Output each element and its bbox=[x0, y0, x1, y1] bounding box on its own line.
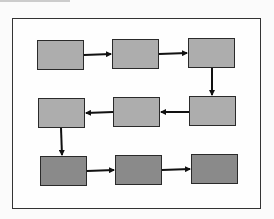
flow-box-6 bbox=[38, 98, 85, 128]
top-edge-artifact bbox=[0, 0, 70, 2]
flow-box-7 bbox=[40, 156, 87, 186]
diagram-canvas bbox=[0, 0, 274, 219]
flow-box-5 bbox=[113, 97, 160, 127]
flow-box-9 bbox=[191, 154, 238, 184]
flow-box-2 bbox=[112, 39, 159, 69]
flow-box-3 bbox=[188, 38, 235, 68]
flow-box-8 bbox=[115, 155, 162, 185]
flow-box-4 bbox=[189, 96, 236, 126]
flow-box-1 bbox=[37, 40, 84, 70]
